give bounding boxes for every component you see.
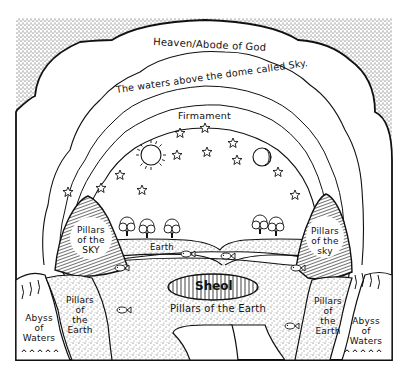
pillars-of-the-earth-center-label: Pillars of the Earth (170, 304, 266, 314)
earth-label: Earth (150, 243, 174, 252)
crescent-moon-icon (253, 148, 271, 166)
abyss-left-label: Abyss of Waters (18, 313, 60, 343)
sun-icon (136, 140, 166, 170)
pillars-of-earth-left-label: Pillars of the Earth (58, 295, 102, 335)
pillars-of-sky-right-label: Pillars of the sky (306, 226, 344, 256)
pillars-of-sky-left-label: Pillars of the SKY (72, 225, 110, 255)
cosmology-diagram: Heaven/Abode of God The waters above the… (0, 0, 409, 376)
abyss-right-label: Abyss of Waters (344, 316, 388, 346)
firmament-label: Firmament (178, 111, 231, 121)
sheol-label: Sheol (195, 280, 233, 292)
